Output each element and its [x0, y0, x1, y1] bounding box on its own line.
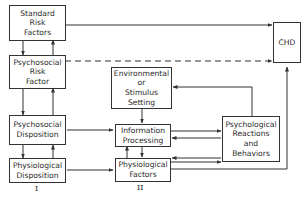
stage-2-label: II — [137, 183, 143, 192]
psychological-reactions-behaviors-node: Psychological Reactions and Behaviors — [222, 116, 280, 162]
standard-risk-factors-node: Standard Risk Factors — [9, 5, 66, 41]
environmental-stimulus-setting-node: Environmental or Stimulus Setting — [111, 67, 172, 109]
chd-model-diagram: Standard Risk Factors Psychosocial Risk … — [0, 0, 308, 198]
chd-node: CHD — [273, 22, 301, 63]
stage-1-label: I — [35, 184, 38, 193]
psychosocial-disposition-node: Psychosocial Disposition — [9, 115, 66, 145]
psychosocial-risk-factor-node: Psychosocial Risk Factor — [9, 55, 66, 89]
physiological-disposition-node: Physiological Disposition — [9, 158, 66, 183]
information-processing-node: Information Processing — [115, 124, 171, 147]
physiological-factors-node: Physiological Factors — [115, 158, 171, 182]
